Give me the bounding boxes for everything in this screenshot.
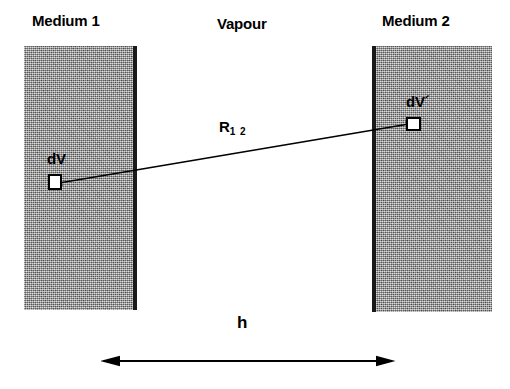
gap-h-label: h	[237, 314, 247, 331]
distance-r12-subscript: 1 2	[230, 126, 247, 137]
dv-prime-label: dV´	[406, 94, 430, 109]
distance-r12-label: R1 2	[219, 119, 247, 134]
dv-volume-element	[48, 174, 62, 190]
distance-r12-symbol: R	[219, 118, 230, 135]
medium-2-label: Medium 2	[382, 13, 450, 28]
physics-diagram: Medium 1 Vapour Medium 2 dV dV´ R1 2 h	[0, 0, 510, 389]
dv-label: dV	[47, 151, 66, 166]
medium-2-block	[372, 46, 492, 312]
vapour-label: Vapour	[217, 16, 267, 31]
medium-1-block	[24, 46, 137, 310]
medium-1-label: Medium 1	[32, 13, 100, 28]
dv-prime-volume-element	[406, 117, 421, 131]
